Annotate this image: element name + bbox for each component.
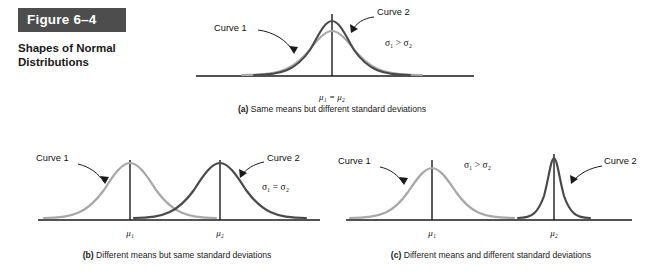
panel-b-caption: (b) Different means but same standard de… [22, 250, 332, 260]
panel-c-sigma-note: σ₁ > σ₂ [464, 160, 491, 170]
panel-a-caption-prefix: (a) [238, 104, 249, 114]
panel-a-curve2-label: Curve 2 [377, 7, 410, 17]
panel-c-caption-prefix: (c) [391, 250, 402, 260]
panel-c-curve1-label: Curve 1 [338, 156, 371, 166]
panel-c-curve1-arrowhead [399, 177, 408, 185]
panel-b-mean1-label: μ₁ [125, 228, 134, 238]
figure-label-block: Figure 6–4 Shapes of Normal Distribution… [18, 8, 178, 69]
panel-a-mean-label: μ₁ = μ₂ [182, 92, 482, 102]
panel-a-curve1-leader [258, 30, 294, 52]
panel-c-caption: (c) Different means and different standa… [336, 250, 646, 260]
panel-a-curve1-arrowhead [289, 46, 298, 54]
panel-b-curve2-label: Curve 2 [267, 153, 300, 163]
panel-c-mean1-label: μ₁ [427, 228, 436, 238]
panel-c: Curve 1 Curve 2 σ₁ > σ₂ μ₁ μ₂ [336, 142, 646, 234]
panel-c-caption-text: Different means and different standard d… [404, 250, 591, 260]
panel-c-mean2-label: μ₂ [549, 228, 558, 238]
panel-b-mean2-label: μ₂ [215, 228, 224, 238]
panel-c-curve2-arrowhead [570, 175, 578, 184]
panel-a: Curve 1 Curve 2 σ₁ > σ₂ [182, 2, 482, 94]
panel-a-caption: (a) Same means but different standard de… [182, 104, 482, 114]
figure-container: Figure 6–4 Shapes of Normal Distribution… [0, 0, 652, 279]
panel-a-curve1-label: Curve 1 [214, 23, 247, 33]
figure-number-band: Figure 6–4 [18, 8, 126, 32]
panel-b: Curve 1 Curve 2 σ₁ = σ₂ μ₁ μ₂ [22, 142, 332, 234]
panel-b-curve1-leader [78, 164, 104, 182]
panel-b-caption-prefix: (b) [83, 250, 94, 260]
figure-title: Shapes of Normal Distributions [18, 41, 158, 69]
panel-c-curve2-label: Curve 2 [604, 156, 637, 166]
panel-a-sigma-note: σ₁ > σ₂ [385, 38, 412, 48]
panel-a-curve2-arrowhead [350, 24, 358, 33]
panel-b-sigma-note: σ₁ = σ₂ [262, 182, 289, 192]
panel-c-curve1-leader [380, 167, 403, 183]
panel-a-caption-text: Same means but different standard deviat… [251, 104, 426, 114]
panel-b-caption-text: Different means but same standard deviat… [96, 250, 271, 260]
panel-b-curve1-label: Curve 1 [36, 153, 69, 163]
